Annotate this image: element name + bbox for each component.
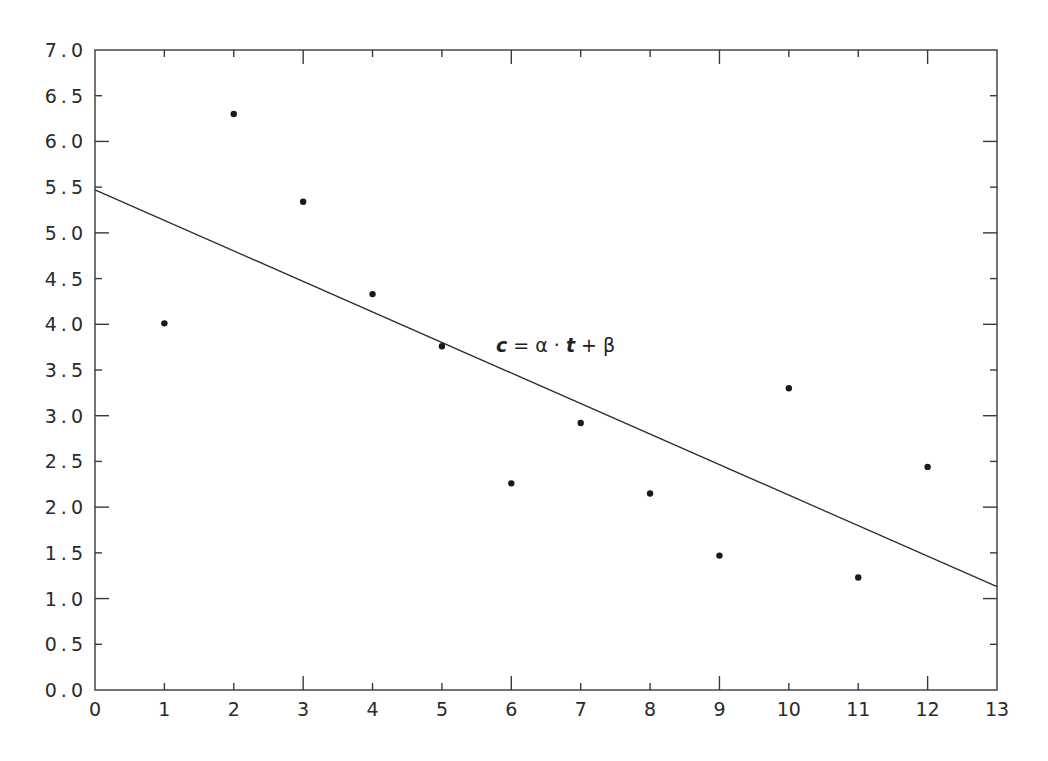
- y-tick-label: 0.0: [45, 679, 87, 701]
- y-tick-label: 4.5: [45, 268, 87, 290]
- y-tick-label: 6.0: [45, 130, 87, 152]
- x-tick-label: 11: [846, 698, 870, 720]
- x-tick-label: 3: [297, 698, 309, 720]
- y-axis-ticks: 0.00.51.01.52.02.53.03.54.04.55.05.56.06…: [45, 39, 997, 701]
- data-point: [577, 420, 583, 426]
- x-tick-label: 10: [777, 698, 801, 720]
- x-tick-label: 9: [713, 698, 725, 720]
- alpha-symbol: α: [535, 334, 548, 356]
- x-tick-label: 12: [916, 698, 940, 720]
- y-tick-label: 1.5: [45, 542, 87, 564]
- data-point: [716, 552, 722, 558]
- data-point: [439, 343, 445, 349]
- y-tick-label: 0.5: [45, 633, 87, 655]
- y-tick-label: 3.5: [45, 359, 87, 381]
- data-point: [786, 385, 792, 391]
- y-tick-label: 7.0: [45, 39, 87, 61]
- y-tick-label: 5.0: [45, 222, 87, 244]
- y-tick-label: 1.0: [45, 588, 87, 610]
- dot-operator: ·: [548, 334, 566, 356]
- y-tick-label: 3.0: [45, 405, 87, 427]
- equation-annotation: c = α · t + β: [496, 334, 615, 356]
- x-tick-label: 1: [158, 698, 170, 720]
- plot-frame: [95, 50, 997, 690]
- data-point: [300, 199, 306, 205]
- x-tick-label: 4: [366, 698, 378, 720]
- equals-sign: =: [507, 334, 535, 356]
- y-tick-label: 5.5: [45, 176, 87, 198]
- x-tick-label: 2: [228, 698, 240, 720]
- y-tick-label: 6.5: [45, 85, 87, 107]
- data-point: [647, 490, 653, 496]
- data-point: [231, 111, 237, 117]
- x-tick-label: 6: [505, 698, 517, 720]
- var-c: c: [496, 334, 508, 356]
- data-point: [855, 574, 861, 580]
- x-tick-label: 13: [985, 698, 1009, 720]
- y-tick-label: 2.5: [45, 450, 87, 472]
- y-tick-label: 2.0: [45, 496, 87, 518]
- regression-line: [95, 190, 997, 587]
- plus-sign: +: [575, 334, 603, 356]
- data-point: [161, 320, 167, 326]
- beta-symbol: β: [603, 334, 615, 356]
- data-point: [508, 480, 514, 486]
- x-tick-label: 0: [89, 698, 101, 720]
- x-tick-label: 8: [644, 698, 656, 720]
- x-axis-ticks: 012345678910111213: [89, 50, 1009, 720]
- x-tick-label: 7: [575, 698, 587, 720]
- scatter-chart: 0.00.51.01.52.02.53.03.54.04.55.05.56.06…: [0, 0, 1048, 761]
- data-point: [369, 291, 375, 297]
- y-tick-label: 4.0: [45, 313, 87, 335]
- x-tick-label: 5: [436, 698, 448, 720]
- data-point: [924, 464, 930, 470]
